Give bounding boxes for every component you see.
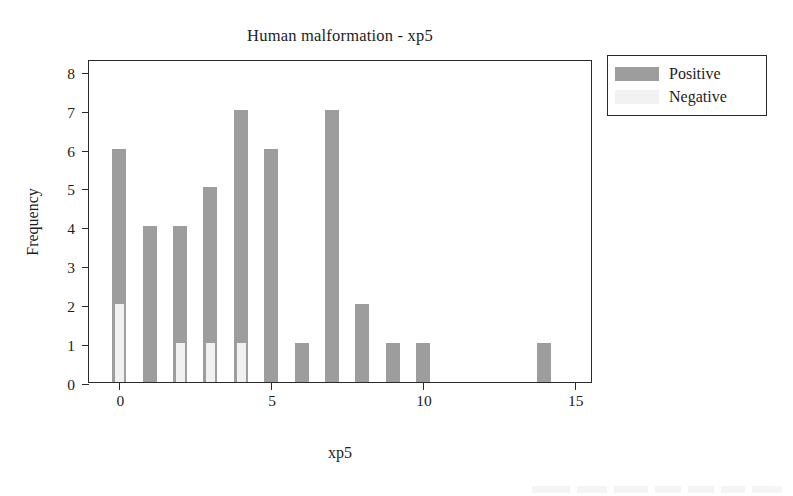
- y-axis-tick: 3: [82, 267, 89, 268]
- x-axis-tick: 0: [119, 382, 120, 390]
- bar-positive: [234, 110, 248, 382]
- y-axis-tick: 5: [82, 189, 89, 190]
- chart-figure: Human malformation - xp5 Frequency 01234…: [0, 0, 793, 496]
- plot-frame: 012345678 051015: [88, 60, 592, 383]
- y-axis-label: Frequency: [22, 60, 44, 383]
- y-axis-tick: 8: [82, 73, 89, 74]
- y-axis-tick: 0: [82, 384, 89, 385]
- bar-negative: [206, 343, 215, 382]
- chart-legend: Positive Negative: [607, 55, 767, 116]
- y-axis-tick-label: 8: [67, 66, 75, 82]
- bar-positive: [355, 304, 369, 382]
- y-axis-tick-label: 0: [67, 377, 75, 393]
- y-axis-tick-label: 1: [67, 338, 75, 354]
- bar-negative: [176, 343, 185, 382]
- legend-item-negative[interactable]: Negative: [615, 85, 758, 108]
- x-axis-tick: 10: [423, 382, 424, 390]
- y-axis-tick-label: 3: [67, 260, 75, 276]
- y-axis-tick: 4: [82, 228, 89, 229]
- y-axis-tick: 6: [82, 151, 89, 152]
- y-axis-tick-label: 4: [67, 221, 75, 237]
- y-axis-tick: 1: [82, 345, 89, 346]
- bar-positive: [416, 343, 430, 382]
- legend-swatch-positive: [615, 67, 659, 81]
- legend-label-negative: Negative: [669, 89, 727, 105]
- y-axis-tick: 2: [82, 306, 89, 307]
- bar-positive: [537, 343, 551, 382]
- bar-positive: [325, 110, 339, 382]
- y-axis-tick-label: 7: [67, 105, 75, 121]
- x-axis-label: xp5: [88, 444, 592, 462]
- legend-label-positive: Positive: [669, 66, 721, 82]
- y-axis-tick-label: 2: [67, 299, 75, 315]
- x-axis-tick: 5: [271, 382, 272, 390]
- scan-artifact-row: [532, 486, 782, 493]
- x-axis-tick-label: 0: [116, 393, 124, 409]
- y-axis-label-text: Frequency: [24, 188, 42, 256]
- bar-positive: [143, 226, 157, 382]
- y-axis-tick-label: 6: [67, 143, 75, 159]
- x-axis-tick-label: 10: [416, 393, 432, 409]
- plot-area: [89, 61, 591, 382]
- x-axis-tick-label: 5: [268, 393, 276, 409]
- bar-negative: [237, 343, 246, 382]
- legend-swatch-negative: [615, 90, 659, 104]
- bar-positive: [386, 343, 400, 382]
- bar-negative: [115, 304, 124, 382]
- chart-title: Human malformation - xp5: [88, 26, 592, 46]
- bar-positive: [264, 149, 278, 382]
- y-axis-tick-label: 5: [67, 182, 75, 198]
- x-axis-tick: 15: [575, 382, 576, 390]
- legend-item-positive[interactable]: Positive: [615, 62, 758, 85]
- bar-positive: [295, 343, 309, 382]
- y-axis-tick: 7: [82, 112, 89, 113]
- x-axis-tick-label: 15: [568, 393, 584, 409]
